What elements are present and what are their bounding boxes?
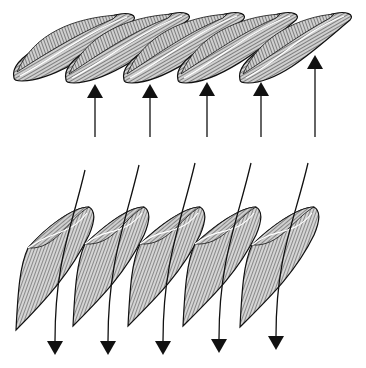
bottom-blade-row xyxy=(16,207,319,330)
arrow-up-icon xyxy=(199,82,215,137)
arrow-up-icon xyxy=(87,84,103,137)
top-blade-row xyxy=(13,13,351,83)
arrow-up-icon xyxy=(142,84,158,137)
cascade-diagram xyxy=(0,0,366,368)
diagram-canvas xyxy=(0,0,366,368)
arrow-up-icon xyxy=(253,82,269,137)
arrow-up-icon xyxy=(307,55,323,137)
